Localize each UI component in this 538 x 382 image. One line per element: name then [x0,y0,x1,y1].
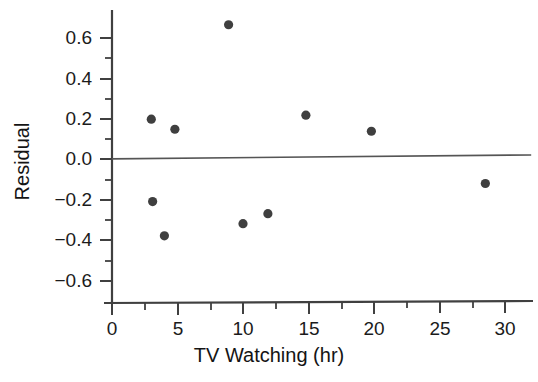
data-point [147,115,156,124]
x-tick-label-0: 0 [92,318,132,340]
y-tick-label--0.6: −0.6 [24,270,92,292]
data-point [238,219,247,228]
data-point [170,125,179,134]
residual-plot-figure: 0.6 0.4 0.2 0.0 −0.2 −0.4 −0.6 0 5 10 15… [0,0,538,382]
y-tick-label--0.4: −0.4 [24,229,92,251]
x-axis-spine [104,301,533,303]
y-tick-label-0.2: 0.2 [32,108,92,130]
x-tick-label-20: 20 [354,318,394,340]
y-tick-label-0.4: 0.4 [32,68,92,90]
y-axis-title: Residual [11,72,34,252]
x-tick-label-10: 10 [223,318,263,340]
x-tick-label-30: 30 [485,318,525,340]
data-point [224,20,233,29]
data-point [367,127,376,136]
y-tick-label-0.6: 0.6 [32,27,92,49]
data-point [301,111,310,120]
y-tick-label--0.2: −0.2 [24,189,92,211]
data-point-group [147,20,490,240]
data-point [263,209,272,218]
y-tick-label-0.0: 0.0 [32,148,92,170]
zero-residual-line [112,155,531,159]
data-point [481,179,490,188]
data-point [160,231,169,240]
x-tick-label-25: 25 [420,318,460,340]
x-axis-title: TV Watching (hr) [0,344,538,367]
x-tick-label-5: 5 [158,318,198,340]
y-major-ticks [100,38,112,281]
x-tick-label-15: 15 [289,318,329,340]
data-point [148,197,157,206]
